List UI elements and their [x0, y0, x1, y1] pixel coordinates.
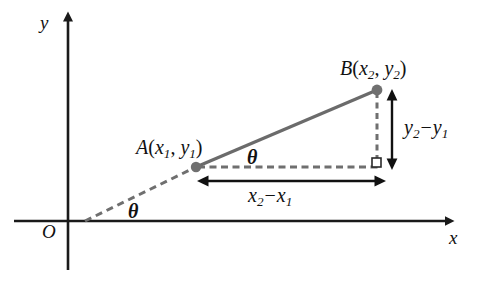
delta-y-var-1: y [433, 116, 442, 138]
point-b-comma: , [374, 57, 384, 79]
delta-y-sub-1: 1 [442, 126, 449, 141]
delta-x-minus: − [263, 184, 276, 206]
point-b-label: B(x2, y2) [340, 58, 407, 81]
delta-x-label: x2−x1 [248, 185, 292, 208]
point-b-y-var: y [384, 57, 393, 79]
x-axis-label: x [449, 228, 457, 247]
delta-y-label: y2−y1 [404, 117, 448, 140]
diagram-canvas [0, 0, 487, 283]
delta-y-minus: − [419, 116, 432, 138]
point-b-dot [372, 85, 383, 96]
delta-y-var-2: y [404, 116, 413, 138]
delta-x-sub-1: 1 [286, 194, 293, 209]
point-a-y-sub: 1 [189, 146, 196, 161]
theta-upper-label: θ [247, 147, 257, 167]
delta-x-var-2: x [248, 184, 257, 206]
dashed-ray-origin-to-a [85, 167, 196, 221]
point-a-close-paren: ) [196, 136, 203, 158]
point-a-y-var: y [180, 136, 189, 158]
right-angle-marker [372, 158, 381, 167]
point-a-dot [191, 162, 201, 172]
origin-label: O [42, 222, 56, 241]
point-b-name: B [340, 57, 352, 79]
point-a-x-var: x [155, 136, 164, 158]
delta-x-var-1: x [277, 184, 286, 206]
point-a-comma: , [170, 136, 180, 158]
point-a-label: A(x1, y1) [136, 137, 203, 160]
point-a-name: A [136, 136, 148, 158]
segment-ab [196, 90, 377, 167]
theta-lower-label: θ [128, 201, 138, 221]
point-b-close-paren: ) [400, 57, 407, 79]
slope-diagram: y x O A(x1, y1) B(x2, y2) θ θ x2−x1 y2−y… [0, 0, 487, 283]
point-b-open-paren: ( [352, 57, 359, 79]
point-b-y-sub: 2 [393, 67, 400, 82]
point-a-open-paren: ( [148, 136, 155, 158]
point-b-x-var: x [359, 57, 368, 79]
y-axis-label: y [40, 13, 48, 32]
